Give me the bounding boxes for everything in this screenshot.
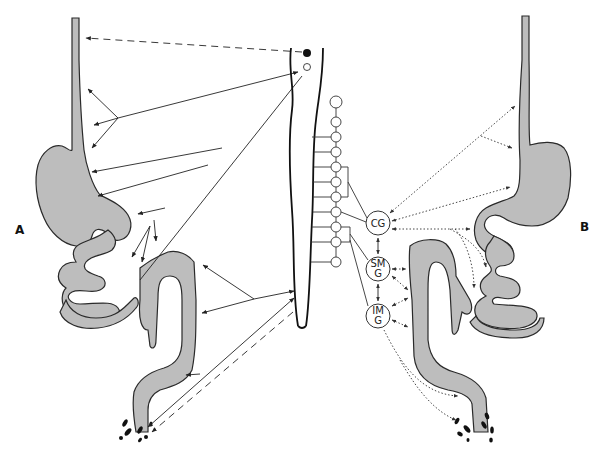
panel-b-large-intestine xyxy=(409,240,488,432)
pelvic-afferent-arrow xyxy=(254,291,294,299)
inferior-mesenteric-ganglion: IM G xyxy=(366,304,390,328)
panel-a-esophagus-stomach xyxy=(36,18,131,247)
panel-a-large-intestine xyxy=(133,251,196,432)
diagram-canvas: CG SM G IM G xyxy=(0,0,600,457)
svg-text:CG: CG xyxy=(371,218,386,229)
sympathetic-chain xyxy=(311,96,368,306)
superior-mesenteric-ganglion: SM G xyxy=(366,257,390,281)
vagal-afferent-arrow-esophagus xyxy=(118,72,298,118)
svg-text:G: G xyxy=(374,315,382,326)
panel-a-gi-tract xyxy=(36,18,196,443)
panel-b-esophagus-stomach xyxy=(474,16,570,259)
vagal-efferent-dashed-arrow xyxy=(86,38,302,52)
filled-nucleus xyxy=(303,49,311,57)
open-nucleus xyxy=(304,64,311,71)
chain-ganglia xyxy=(330,96,342,267)
panel-label-b: B xyxy=(580,220,589,234)
prevertebral-ganglia: CG SM G IM G xyxy=(366,211,390,328)
svg-text:G: G xyxy=(374,268,382,279)
celiac-ganglion: CG xyxy=(366,211,390,235)
panel-b-gi-tract xyxy=(409,16,570,443)
panel-label-a: A xyxy=(15,223,24,237)
chain-rami xyxy=(311,137,350,262)
spinal-cord xyxy=(290,48,323,328)
cg-to-esophagus-arrow xyxy=(390,106,515,213)
